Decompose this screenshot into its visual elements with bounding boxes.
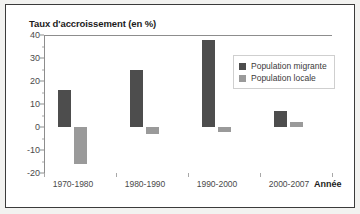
y-tick-label: -10 bbox=[27, 145, 40, 155]
y-tick-label: 40 bbox=[30, 30, 40, 40]
y-minor-tick-mark bbox=[42, 92, 44, 93]
y-tick-label: 20 bbox=[30, 76, 40, 86]
bar-migrante-2000-2007 bbox=[274, 111, 287, 127]
bar-migrante-1980-1990 bbox=[130, 70, 143, 128]
y-minor-tick-mark bbox=[42, 115, 44, 116]
y-tick-mark bbox=[40, 104, 44, 105]
legend-swatch-icon-migrante bbox=[239, 63, 246, 70]
x-tick-mark bbox=[332, 173, 333, 177]
x-tick-mark bbox=[260, 173, 261, 177]
bar-migrante-1970-1980 bbox=[58, 90, 71, 127]
legend-item-migrante: Population migrante bbox=[239, 60, 327, 72]
x-tick-label: 1980-1990 bbox=[125, 179, 166, 189]
bar-locale-1980-1990 bbox=[146, 127, 159, 134]
y-tick-mark bbox=[40, 127, 44, 128]
y-minor-tick-mark bbox=[42, 46, 44, 47]
legend-swatch-icon-locale bbox=[239, 75, 246, 82]
bar-locale-1990-2000 bbox=[218, 127, 231, 132]
y-tick-mark bbox=[40, 35, 44, 36]
y-tick-label: 10 bbox=[30, 99, 40, 109]
x-axis-title: Année bbox=[314, 179, 342, 189]
y-tick-label: 30 bbox=[30, 53, 40, 63]
bar-locale-1970-1980 bbox=[74, 127, 87, 164]
bar-migrante-1990-2000 bbox=[202, 40, 215, 127]
chart-frame: Taux d'accroissement (en %) 403020100-10… bbox=[5, 4, 355, 208]
x-tick-label: 2000-2007 bbox=[269, 179, 310, 189]
legend-item-locale: Population locale bbox=[239, 72, 327, 84]
zero-baseline bbox=[44, 35, 332, 36]
y-tick-mark bbox=[40, 81, 44, 82]
y-tick-label: -20 bbox=[27, 168, 40, 178]
x-tick-label: 1970-1980 bbox=[53, 179, 94, 189]
chart-figure: Taux d'accroissement (en %) 403020100-10… bbox=[0, 0, 360, 214]
x-tick-mark bbox=[44, 173, 45, 177]
y-tick-label: 0 bbox=[35, 122, 40, 132]
y-minor-tick-mark bbox=[42, 161, 44, 162]
y-minor-tick-mark bbox=[42, 69, 44, 70]
legend-label-migrante: Population migrante bbox=[251, 61, 327, 71]
y-axis-line bbox=[44, 35, 45, 173]
y-minor-tick-mark bbox=[42, 138, 44, 139]
x-tick-mark bbox=[188, 173, 189, 177]
y-tick-mark bbox=[40, 58, 44, 59]
legend-label-locale: Population locale bbox=[251, 73, 316, 83]
bar-locale-2000-2007 bbox=[290, 122, 303, 127]
x-tick-label: 1990-2000 bbox=[197, 179, 238, 189]
chart-legend: Population migrante Population locale bbox=[233, 55, 335, 89]
y-tick-mark bbox=[40, 150, 44, 151]
chart-title: Taux d'accroissement (en %) bbox=[29, 18, 156, 29]
x-tick-mark bbox=[116, 173, 117, 177]
